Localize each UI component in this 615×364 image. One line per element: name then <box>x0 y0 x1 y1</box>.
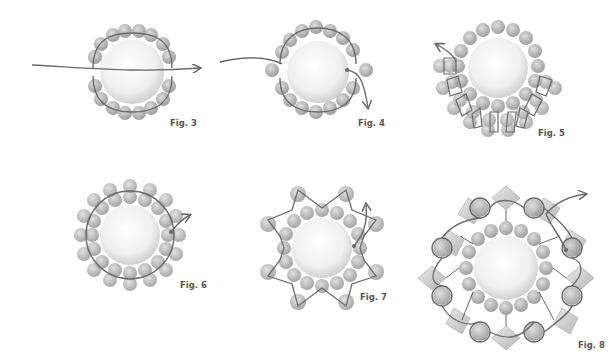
figure-3: Fig. 3 <box>0 0 210 150</box>
fig5-label: Fig. 5 <box>538 128 565 138</box>
figure-4: Fig. 4 <box>210 0 410 150</box>
fig6-label: Fig. 6 <box>180 280 207 290</box>
figure-8: Fig. 8 <box>420 180 615 364</box>
fig8-label: Fig. 8 <box>578 340 605 350</box>
fig8-illustration <box>420 180 615 364</box>
fig3-label: Fig. 3 <box>170 118 197 128</box>
figure-7: Fig. 7 <box>230 170 410 320</box>
fig5-illustration <box>410 0 615 150</box>
fig4-label: Fig. 4 <box>358 118 385 128</box>
figure-6: Fig. 6 <box>50 170 220 300</box>
fig7-label: Fig. 7 <box>360 292 387 302</box>
figure-5: Fig. 5 <box>410 0 615 150</box>
